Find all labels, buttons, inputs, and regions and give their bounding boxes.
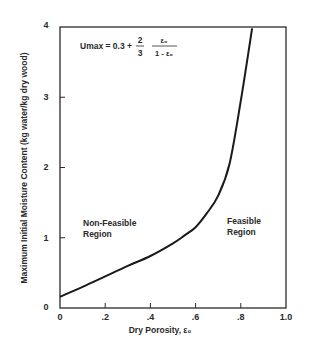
svg-text:2: 2 bbox=[43, 162, 48, 172]
chart: 0 .2 .4 .6 .8 1.0 0 1 2 3 4 Dry Porosity… bbox=[0, 0, 309, 351]
y-tick-labels: 0 1 2 3 4 bbox=[43, 20, 48, 312]
non-feasible-region-label: Non-Feasible Region bbox=[83, 218, 137, 239]
x-axis-title: Dry Porosity, ε₀ bbox=[129, 325, 192, 335]
svg-text:Feasible: Feasible bbox=[227, 216, 261, 226]
equation-annotation: Umax = 0.3 + 2 3 ε₀ 1 - ε₀ bbox=[80, 35, 177, 58]
umax-curve bbox=[60, 28, 252, 296]
x-tick-labels: 0 .2 .4 .6 .8 1.0 bbox=[57, 312, 292, 322]
svg-text:1 - ε₀: 1 - ε₀ bbox=[155, 49, 173, 58]
svg-text:4: 4 bbox=[43, 20, 48, 30]
svg-text:0: 0 bbox=[57, 312, 62, 322]
svg-text:2: 2 bbox=[138, 35, 143, 45]
x-ticks bbox=[105, 303, 241, 308]
svg-text:.2: .2 bbox=[101, 312, 109, 322]
svg-text:0: 0 bbox=[43, 302, 48, 312]
svg-text:ε₀: ε₀ bbox=[161, 36, 168, 45]
y-axis-title: Maximum Initial Moisture Content (kg wat… bbox=[19, 52, 29, 283]
y-ticks bbox=[60, 97, 65, 238]
svg-text:1.0: 1.0 bbox=[280, 312, 293, 322]
svg-text:3: 3 bbox=[138, 48, 143, 58]
svg-text:Region: Region bbox=[83, 229, 112, 239]
svg-text:.4: .4 bbox=[147, 312, 155, 322]
svg-text:1: 1 bbox=[43, 233, 48, 243]
svg-text:.6: .6 bbox=[192, 312, 200, 322]
svg-text:3: 3 bbox=[43, 92, 48, 102]
svg-text:Region: Region bbox=[227, 227, 256, 237]
feasible-region-label: Feasible Region bbox=[227, 216, 261, 237]
svg-text:Non-Feasible: Non-Feasible bbox=[83, 218, 137, 228]
svg-text:Umax = 0.3 +: Umax = 0.3 + bbox=[80, 41, 132, 51]
svg-text:.8: .8 bbox=[237, 312, 245, 322]
plot-frame bbox=[60, 27, 286, 308]
